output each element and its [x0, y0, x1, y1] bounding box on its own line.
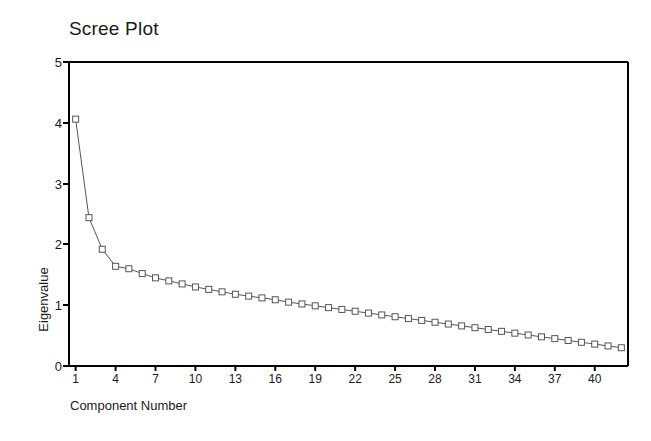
- data-point-13: [232, 291, 238, 297]
- data-point-6: [139, 271, 145, 277]
- y-axis-title: Eigenvalue: [36, 240, 51, 360]
- data-point-40: [592, 341, 598, 347]
- scree-plot-page: Scree Plot: [0, 0, 651, 441]
- x-tick-label-40: 40: [580, 373, 610, 385]
- data-point-39: [578, 339, 584, 345]
- data-point-16: [272, 297, 278, 303]
- data-point-8: [166, 278, 172, 284]
- plot-area: 5 4 3 2 1 0 1471013161922252831343740 Ei…: [0, 0, 651, 441]
- data-point-15: [259, 295, 265, 301]
- x-tick-label-31: 31: [460, 373, 490, 385]
- data-point-3: [99, 246, 105, 252]
- data-point-42: [618, 345, 624, 351]
- x-tick-label-16: 16: [260, 373, 290, 385]
- x-tick-label-19: 19: [300, 373, 330, 385]
- data-point-17: [286, 299, 292, 305]
- x-tick-label-28: 28: [420, 373, 450, 385]
- x-tick-label-34: 34: [500, 373, 530, 385]
- data-point-27: [419, 317, 425, 323]
- x-tick-label-22: 22: [340, 373, 370, 385]
- data-point-11: [206, 286, 212, 292]
- data-point-21: [339, 306, 345, 312]
- data-point-22: [352, 308, 358, 314]
- data-point-26: [405, 316, 411, 322]
- data-point-28: [432, 319, 438, 325]
- x-tick-label-7: 7: [141, 373, 171, 385]
- data-point-23: [365, 310, 371, 316]
- data-point-7: [153, 275, 159, 281]
- axis-frame: [69, 62, 628, 366]
- data-point-4: [113, 263, 119, 269]
- data-point-32: [485, 327, 491, 333]
- data-point-2: [86, 215, 92, 221]
- data-point-38: [565, 337, 571, 343]
- data-point-34: [512, 330, 518, 336]
- y-tick-label-4: 4: [40, 117, 62, 130]
- x-axis-title: Component Number: [70, 398, 187, 413]
- data-point-41: [605, 343, 611, 349]
- x-tick-label-25: 25: [380, 373, 410, 385]
- x-tick-label-10: 10: [180, 373, 210, 385]
- data-series: [73, 116, 625, 351]
- data-point-12: [219, 289, 225, 295]
- x-tick-label-37: 37: [540, 373, 570, 385]
- data-point-31: [472, 325, 478, 331]
- x-tick-label-4: 4: [101, 373, 131, 385]
- data-point-25: [392, 314, 398, 320]
- data-point-37: [552, 336, 558, 342]
- data-point-36: [538, 334, 544, 340]
- y-tick-label-5: 5: [40, 56, 62, 69]
- x-tick-label-13: 13: [220, 373, 250, 385]
- data-point-9: [179, 281, 185, 287]
- data-point-35: [525, 332, 531, 338]
- data-point-1: [73, 116, 79, 122]
- data-point-5: [126, 266, 132, 272]
- x-tick-label-1: 1: [61, 373, 91, 385]
- data-point-18: [299, 301, 305, 307]
- data-point-19: [312, 303, 318, 309]
- data-point-14: [246, 293, 252, 299]
- data-point-10: [192, 284, 198, 290]
- data-point-24: [379, 312, 385, 318]
- data-point-33: [499, 328, 505, 334]
- series-line: [76, 119, 622, 348]
- data-point-30: [459, 323, 465, 329]
- data-point-20: [326, 305, 332, 311]
- series-markers: [73, 116, 625, 351]
- y-tick-label-0: 0: [40, 360, 62, 373]
- data-point-29: [445, 321, 451, 327]
- y-tick-label-3: 3: [40, 178, 62, 191]
